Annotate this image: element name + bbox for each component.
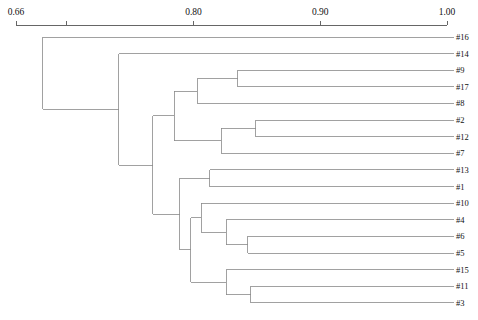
leaf-label: #6 [456, 231, 465, 241]
leaf-label: #4 [456, 215, 465, 225]
leaf-label: #13 [456, 165, 469, 175]
axis-tick-label: 0.66 [8, 7, 25, 17]
axis: 0.660.800.901.00 [8, 7, 456, 25]
leaf-label: #17 [456, 82, 469, 92]
tree-links [43, 37, 447, 303]
leaf-labels: #16#14#9#17#8#2#12#7#13#1#10#4#6#5#15#11… [447, 32, 470, 308]
dendrogram-canvas: 0.660.800.901.00 #16#14#9#17#8#2#12#7#13… [0, 0, 478, 320]
leaf-label: #8 [456, 98, 465, 108]
axis-tick-label: 0.90 [312, 7, 329, 17]
leaf-label: #5 [456, 248, 465, 258]
dendrogram-figure: 0.660.800.901.00 #16#14#9#17#8#2#12#7#13… [0, 0, 478, 320]
leaf-label: #2 [456, 115, 465, 125]
leaf-label: #1 [456, 182, 465, 192]
leaf-label: #12 [456, 132, 469, 142]
leaf-label: #16 [456, 32, 469, 42]
axis-tick-label: 0.80 [185, 7, 202, 17]
leaf-label: #11 [456, 281, 468, 291]
leaf-label: #10 [456, 198, 469, 208]
axis-tick-label: 1.00 [439, 7, 456, 17]
leaf-label: #14 [456, 49, 470, 59]
leaf-label: #9 [456, 65, 465, 75]
leaf-label: #3 [456, 298, 465, 308]
leaf-label: #7 [456, 148, 465, 158]
leaf-label: #15 [456, 265, 469, 275]
